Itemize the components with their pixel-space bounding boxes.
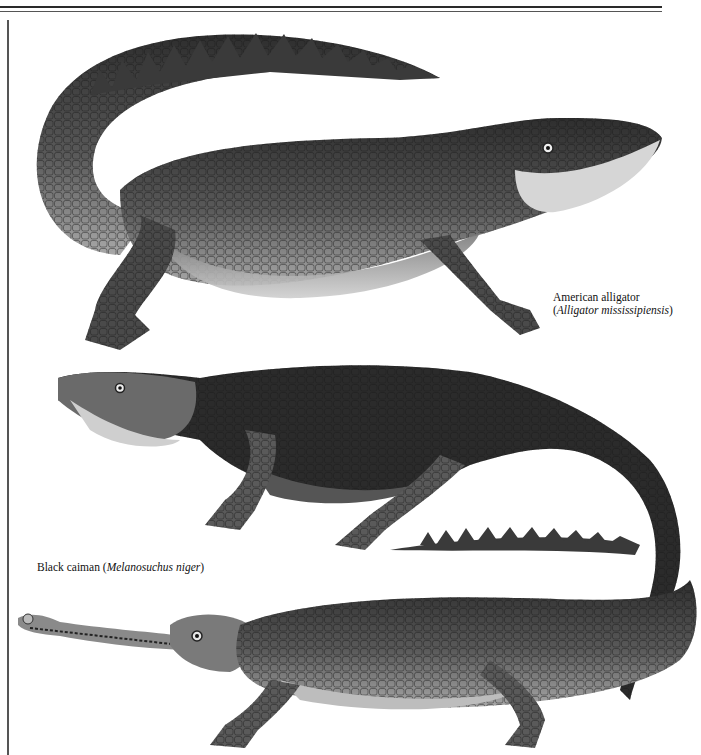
alligator-common-name: American alligator xyxy=(553,291,673,304)
alligator-scientific-name: Alligator mississipiensis xyxy=(557,304,669,316)
caiman-scientific-name: Melanosuchus niger xyxy=(107,561,201,573)
caiman-common-name: Black caiman xyxy=(37,561,103,573)
gharial-figure xyxy=(18,580,697,748)
crocodilians-illustration xyxy=(0,0,701,755)
alligator-scientific-name-line: (Alligator mississipiensis) xyxy=(553,304,673,317)
caption-black-caiman: Black caiman (Melanosuchus niger) xyxy=(37,561,204,574)
caption-american-alligator: American alligator (Alligator mississipi… xyxy=(553,291,673,317)
